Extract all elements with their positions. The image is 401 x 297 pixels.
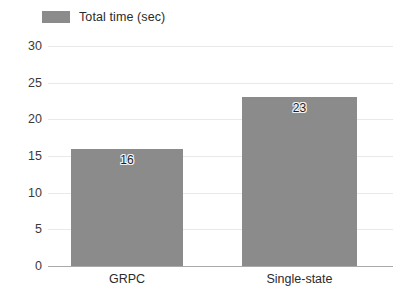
legend-label-total-time: Total time (sec) — [79, 11, 165, 24]
y-tick-label-15: 15 — [8, 150, 42, 162]
gridline-30 — [48, 46, 393, 47]
bar-value-grpc: 16 — [120, 154, 133, 166]
x-axis-label-single-state: Single-state — [242, 272, 357, 286]
y-axis: 30 25 20 15 10 5 0 — [0, 46, 42, 266]
bar-chart: Total time (sec) 30 25 20 15 10 5 0 16 2… — [0, 0, 401, 297]
bar-value-single-state: 23 — [293, 102, 306, 114]
y-tick-label-25: 25 — [8, 77, 42, 89]
y-tick-label-5: 5 — [8, 223, 42, 235]
gridline-25 — [48, 83, 393, 84]
y-tick-label-10: 10 — [8, 187, 42, 199]
bar-grpc[interactable]: 16 — [71, 149, 183, 266]
legend-swatch-total-time — [42, 11, 70, 23]
y-tick-label-30: 30 — [8, 40, 42, 52]
x-axis-baseline — [48, 266, 393, 267]
chart-legend: Total time (sec) — [42, 9, 165, 25]
y-tick-label-0: 0 — [8, 260, 42, 272]
x-axis-label-grpc: GRPC — [71, 272, 183, 286]
y-tick-label-20: 20 — [8, 113, 42, 125]
bar-single-state[interactable]: 23 — [242, 97, 357, 266]
plot-area: 16 23 — [48, 46, 393, 266]
